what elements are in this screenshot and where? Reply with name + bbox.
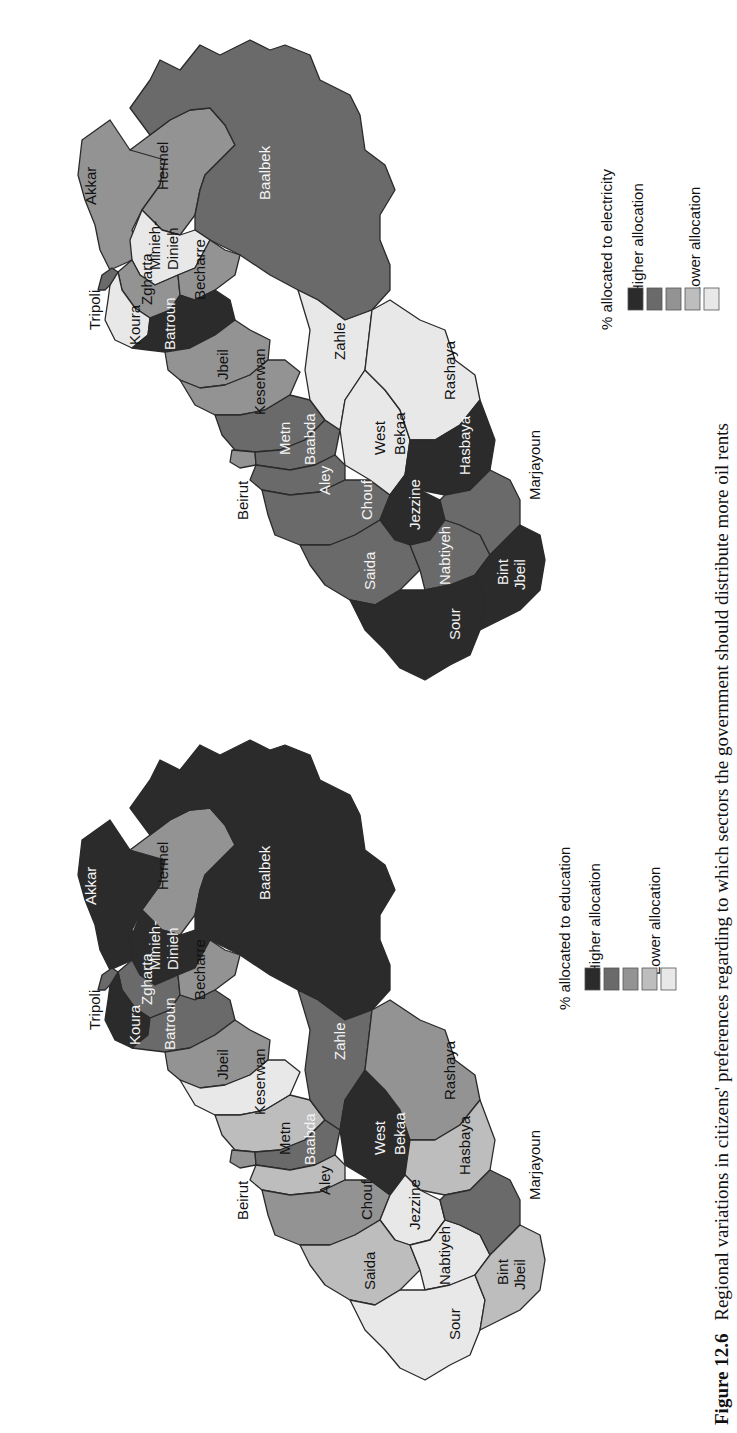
- district-label: Hasbaya: [456, 1115, 473, 1175]
- district-label: Hermel: [154, 842, 171, 890]
- figure-canvas: AkkarHermelBaalbekMinieh-DiniehZghartaBe…: [0, 0, 737, 1433]
- legend-swatch: [685, 288, 700, 310]
- district-label: West: [371, 1120, 388, 1155]
- legend-swatch: [666, 288, 681, 310]
- district-label: Chouf: [358, 1179, 375, 1220]
- district-label: Nabtiyeh: [436, 1226, 453, 1285]
- district-label: Becharre: [191, 939, 208, 1000]
- district-label: Sour: [446, 608, 463, 640]
- legend-education: % allocated to education Higher allocati…: [556, 847, 676, 1010]
- district-label: Marjayoun: [526, 430, 543, 500]
- district-label: Jezzine: [406, 479, 423, 530]
- figure-caption: Figure 12.6 Regional variations in citiz…: [711, 423, 732, 1425]
- district-label: Nabtiyeh: [436, 526, 453, 585]
- district-label: Keserwan: [251, 1048, 268, 1115]
- legend-high-label: Higher allocation: [629, 183, 646, 295]
- district-label: Dinieh: [164, 227, 181, 270]
- legend-swatch: [642, 968, 657, 990]
- district-label: Baalbek: [256, 145, 273, 200]
- district-label: Jbeil: [511, 559, 528, 590]
- district-label: Bekaa: [391, 412, 408, 455]
- district-label: Metn: [276, 422, 293, 455]
- district-label: Rashaya: [441, 340, 458, 400]
- district-label: Sour: [446, 1308, 463, 1340]
- figure-caption-text: Regional variations in citizens' prefere…: [711, 423, 732, 1321]
- district-label: Jbeil: [511, 1259, 528, 1290]
- district-label: Jbeil: [214, 1049, 231, 1080]
- district-label: Aley: [316, 1165, 333, 1195]
- district-label: West: [371, 420, 388, 455]
- city-label: Beirut: [234, 1180, 251, 1220]
- district-label: Jbeil: [214, 349, 231, 380]
- district-label: Bint: [494, 1258, 511, 1285]
- city-label: Tripoli: [86, 990, 103, 1030]
- map-education: AkkarHermelBaalbekMinieh-DiniehZghartaBe…: [78, 740, 545, 1380]
- district-label: Aley: [316, 465, 333, 495]
- district-label: Hermel: [154, 142, 171, 190]
- district-label: Baabda: [301, 413, 318, 465]
- district-label: Bint: [494, 558, 511, 585]
- legend-swatch: [704, 288, 719, 310]
- legend-swatch: [628, 288, 643, 310]
- district-label: Baabda: [301, 1113, 318, 1165]
- district-label: Akkar: [82, 867, 99, 905]
- legend-low-label: Lower allocation: [686, 187, 703, 295]
- legend-title: % allocated to education: [556, 847, 573, 1010]
- district-label: Bekaa: [391, 1112, 408, 1155]
- figure-number: Figure 12.6: [711, 1334, 732, 1425]
- district-label: Zahle: [331, 322, 348, 360]
- legend-swatch: [647, 288, 662, 310]
- district-label: Chouf: [358, 479, 375, 520]
- district-label: Zgharta: [138, 953, 155, 1005]
- legend-electricity: % allocated to electricity Higher alloca…: [598, 169, 719, 330]
- legend-high-label: Higher allocation: [586, 863, 603, 975]
- legend-swatch: [623, 968, 638, 990]
- district-label: Keserwan: [251, 348, 268, 415]
- district-label: Marjayoun: [526, 1130, 543, 1200]
- district-label: Zahle: [331, 1022, 348, 1060]
- map-electricity: AkkarHermelBaalbekMinieh-DiniehZghartaBe…: [78, 40, 545, 680]
- legend-low-label: Lower allocation: [646, 867, 663, 975]
- district-label: Saida: [361, 1251, 378, 1290]
- district-label: Baalbek: [256, 845, 273, 900]
- district-beirut: [230, 450, 256, 468]
- district-label: Jezzine: [406, 1179, 423, 1230]
- legend-swatches: [585, 968, 676, 990]
- district-label: Dinieh: [164, 927, 181, 970]
- legend-swatch: [661, 968, 676, 990]
- district-label: Koura: [126, 1004, 143, 1045]
- city-label: Beirut: [234, 480, 251, 520]
- district-label: Becharre: [191, 239, 208, 300]
- legend-swatches: [628, 288, 719, 310]
- city-label: Tripoli: [86, 290, 103, 330]
- district-label: Hasbaya: [456, 415, 473, 475]
- district-label: Koura: [126, 304, 143, 345]
- district-label: Metn: [276, 1122, 293, 1155]
- district-label: Saida: [361, 551, 378, 590]
- district-label: Zgharta: [138, 253, 155, 305]
- district-beirut: [230, 1150, 256, 1168]
- legend-swatch: [585, 968, 600, 990]
- district-label: Akkar: [82, 167, 99, 205]
- district-label: Rashaya: [441, 1040, 458, 1100]
- district-label: Batroun: [161, 297, 178, 350]
- legend-title: % allocated to electricity: [598, 169, 615, 330]
- district-label: Batroun: [161, 997, 178, 1050]
- legend-swatch: [604, 968, 619, 990]
